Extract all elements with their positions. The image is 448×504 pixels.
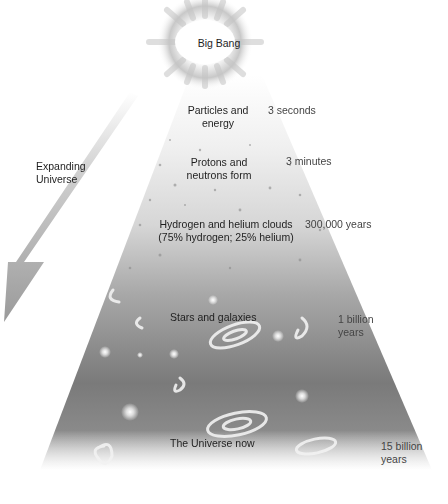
stage-label-line: Particles and bbox=[188, 104, 249, 117]
stage-label-universe-now: The Universe now bbox=[170, 437, 255, 450]
time-label-3-minutes: 3 minutes bbox=[286, 155, 332, 168]
expanding-universe-label: Expanding Universe bbox=[36, 160, 86, 186]
stage-label-particles: Particles and energy bbox=[188, 104, 249, 130]
diagram-graphics bbox=[0, 0, 448, 504]
big-bang-title: Big Bang bbox=[198, 37, 241, 50]
time-label-line: years bbox=[338, 326, 374, 339]
stage-label-hydrogen-helium: Hydrogen and helium clouds (75% hydrogen… bbox=[158, 218, 293, 244]
stage-label-line: Protons and bbox=[187, 156, 252, 169]
time-label-300000-years: 300,000 years bbox=[305, 218, 372, 231]
time-label-3-seconds: 3 seconds bbox=[268, 104, 316, 117]
stage-label-protons: Protons and neutrons form bbox=[187, 156, 252, 182]
arrow-label-line: Expanding bbox=[36, 160, 86, 173]
time-label-1-billion-years: 1 billion years bbox=[338, 313, 374, 339]
expansion-cone bbox=[40, 75, 432, 470]
time-label-line: years bbox=[381, 453, 422, 466]
stage-label-stars-galaxies: Stars and galaxies bbox=[170, 311, 256, 324]
stage-label-line: neutrons form bbox=[187, 169, 252, 182]
stage-label-line: energy bbox=[188, 117, 249, 130]
time-label-15-billion-years: 15 billion years bbox=[381, 440, 422, 466]
stage-label-line: Hydrogen and helium clouds bbox=[158, 218, 293, 231]
stage-label-line: (75% hydrogen; 25% helium) bbox=[158, 231, 293, 244]
time-label-line: 15 billion bbox=[381, 440, 422, 453]
big-bang-diagram: Big Bang Expanding Universe Particles an… bbox=[0, 0, 448, 504]
time-label-line: 1 billion bbox=[338, 313, 374, 326]
arrow-label-line: Universe bbox=[36, 173, 86, 186]
